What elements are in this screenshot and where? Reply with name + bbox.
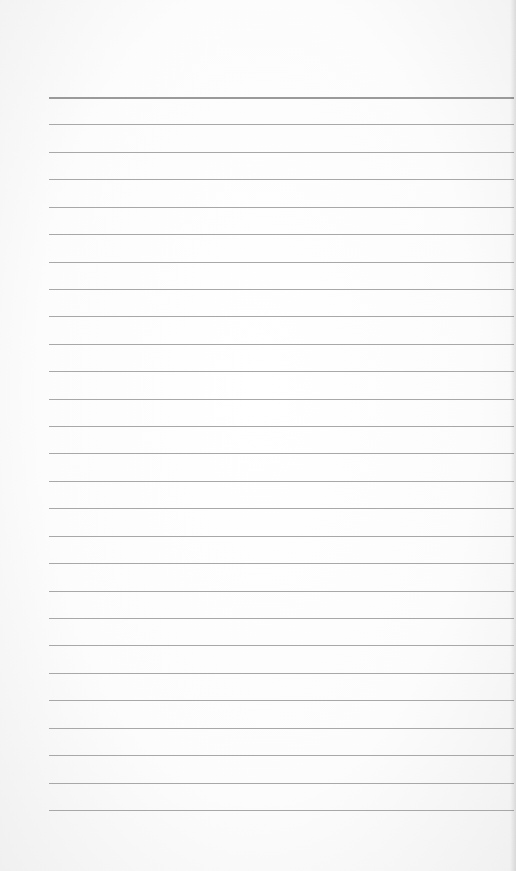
rule-line bbox=[49, 645, 514, 646]
rule-line bbox=[49, 755, 514, 756]
rule-line bbox=[49, 152, 514, 153]
rule-line bbox=[49, 289, 514, 290]
rule-line bbox=[49, 536, 514, 537]
rule-line bbox=[49, 810, 514, 811]
rule-line bbox=[49, 207, 514, 208]
rule-line bbox=[49, 728, 514, 729]
rule-line bbox=[49, 124, 514, 125]
rule-line bbox=[49, 481, 514, 482]
rule-line bbox=[49, 673, 514, 674]
rule-line bbox=[49, 316, 514, 317]
rule-line bbox=[49, 426, 514, 427]
rule-line bbox=[49, 399, 514, 400]
top-rule-line bbox=[49, 97, 514, 99]
lined-paper bbox=[0, 0, 516, 871]
ruled-lines bbox=[0, 0, 516, 871]
rule-line bbox=[49, 234, 514, 235]
rule-line bbox=[49, 591, 514, 592]
page-edge-shadow bbox=[510, 0, 516, 871]
rule-line bbox=[49, 508, 514, 509]
rule-line bbox=[49, 371, 514, 372]
rule-line bbox=[49, 618, 514, 619]
rule-line bbox=[49, 344, 514, 345]
rule-line bbox=[49, 700, 514, 701]
rule-line bbox=[49, 179, 514, 180]
rule-line bbox=[49, 783, 514, 784]
rule-line bbox=[49, 262, 514, 263]
rule-line bbox=[49, 563, 514, 564]
rule-line bbox=[49, 453, 514, 454]
